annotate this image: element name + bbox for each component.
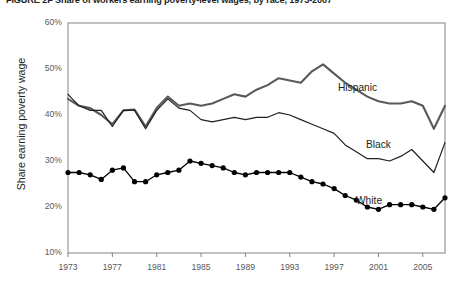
x-tick-label: 1993 — [270, 262, 310, 272]
series-line-black — [68, 94, 445, 172]
series-marker-white — [398, 202, 403, 207]
series-marker-white — [287, 170, 292, 175]
series-line-hispanic — [68, 64, 445, 128]
x-tick-label: 1981 — [137, 262, 177, 272]
y-tick-label: 50% — [28, 63, 62, 73]
x-tick-label: 1977 — [92, 262, 132, 272]
series-marker-white — [110, 168, 115, 173]
series-marker-white — [431, 207, 436, 212]
y-tick-label: 30% — [28, 155, 62, 165]
series-marker-white — [99, 177, 104, 182]
y-axis-title: Share earning poverty wage — [15, 44, 27, 204]
series-marker-white — [309, 179, 314, 184]
series-marker-white — [76, 170, 81, 175]
series-marker-white — [165, 170, 170, 175]
series-marker-white — [65, 170, 70, 175]
series-marker-white — [442, 195, 447, 200]
series-marker-white — [420, 204, 425, 209]
series-marker-white — [143, 179, 148, 184]
series-marker-white — [298, 175, 303, 180]
chart-plot-area: 60%50%40%30%20%10% 197319771981198519891… — [0, 0, 460, 295]
x-tick-label: 1973 — [48, 262, 88, 272]
series-marker-white — [276, 170, 281, 175]
series-marker-white — [88, 172, 93, 177]
x-tick-label: 1985 — [181, 262, 221, 272]
y-tick-label: 20% — [28, 201, 62, 211]
series-marker-white — [121, 165, 126, 170]
series-marker-white — [221, 165, 226, 170]
series-label-white: White — [356, 195, 382, 206]
chart-svg — [0, 0, 460, 295]
series-marker-white — [265, 170, 270, 175]
series-marker-white — [154, 172, 159, 177]
series-marker-white — [243, 172, 248, 177]
x-tick-label: 2005 — [403, 262, 443, 272]
series-marker-white — [210, 163, 215, 168]
series-label-hispanic: Hispanic — [338, 82, 377, 93]
series-marker-white — [254, 170, 259, 175]
series-marker-white — [387, 202, 392, 207]
series-marker-white — [176, 168, 181, 173]
series-label-black: Black — [366, 139, 391, 150]
series-marker-white — [232, 170, 237, 175]
y-tick-label: 60% — [28, 17, 62, 27]
y-tick-label: 10% — [28, 247, 62, 257]
y-tick-label: 40% — [28, 109, 62, 119]
series-marker-white — [132, 179, 137, 184]
series-marker-white — [198, 161, 203, 166]
series-marker-white — [409, 202, 414, 207]
x-tick-label: 2001 — [358, 262, 398, 272]
x-tick-label: 1997 — [314, 262, 354, 272]
series-marker-white — [320, 181, 325, 186]
series-marker-white — [376, 207, 381, 212]
plot-frame — [68, 23, 445, 253]
series-marker-white — [343, 193, 348, 198]
x-tick-label: 1989 — [225, 262, 265, 272]
series-marker-white — [187, 158, 192, 163]
series-marker-white — [332, 186, 337, 191]
